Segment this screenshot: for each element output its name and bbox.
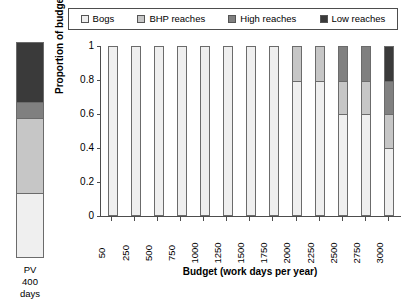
bar-500 <box>154 46 164 216</box>
bar-segment <box>385 47 393 81</box>
x-axis-tick-mark <box>388 216 389 221</box>
x-axis-label-slot: 2250 <box>314 224 324 268</box>
legend-entry: Bogs <box>81 14 115 24</box>
x-axis-label-slot: 1750 <box>268 224 278 268</box>
y-axis-tick-label: 0 <box>88 211 94 221</box>
legend-label: Bogs <box>93 14 115 24</box>
x-axis-label-slot: 2750 <box>360 224 370 268</box>
stacked-bar-chart: Proportion of budget 00.20.40.60.81 5025… <box>56 38 401 288</box>
bar-segment <box>316 81 324 215</box>
bar-1000 <box>200 46 210 216</box>
x-axis-tick-mark <box>157 216 158 221</box>
x-axis-tick-mark <box>365 216 366 221</box>
bar-segment <box>362 47 370 81</box>
x-axis-tick-mark <box>249 216 250 221</box>
y-axis-title: Proportion of budget <box>54 0 65 94</box>
pv-caption-line-1: PV <box>10 264 50 276</box>
x-axis-tick-mark <box>180 216 181 221</box>
x-axis-label-slot: 50 <box>107 224 117 268</box>
bar-segment <box>362 114 370 215</box>
y-axis-tick-mark <box>97 148 101 149</box>
pv-stacked-bar <box>16 42 44 258</box>
legend-label: High reaches <box>240 14 296 24</box>
x-axis-label-slot: 1000 <box>199 224 209 268</box>
bar-2500 <box>338 46 348 216</box>
bar-segment <box>109 47 117 215</box>
legend-swatch-icon <box>137 15 145 23</box>
x-axis-tick-mark <box>272 216 273 221</box>
pv-caption-line-2: 400 <box>10 276 50 288</box>
bar-1750 <box>269 46 279 216</box>
bar-segment <box>155 47 163 215</box>
bar-segment <box>362 81 370 115</box>
x-axis-label-slot: 250 <box>130 224 140 268</box>
legend-swatch-icon <box>81 15 89 23</box>
y-axis-tick-label: 0.8 <box>80 75 94 85</box>
x-axis-tick-mark <box>296 216 297 221</box>
legend-entry: High reaches <box>228 14 296 24</box>
x-axis-tick-mark <box>111 216 112 221</box>
x-axis-tick-mark <box>342 216 343 221</box>
y-axis-tick-label: 1 <box>88 41 94 51</box>
bar-group <box>101 46 401 216</box>
plot-area <box>100 46 401 217</box>
pv-segment <box>17 102 43 118</box>
x-axis-tick-label: 3000 <box>373 242 403 263</box>
bar-segment <box>201 47 209 215</box>
x-axis-label-slot: 750 <box>176 224 186 268</box>
x-axis-label-slot: 500 <box>153 224 163 268</box>
bar-segment <box>178 47 186 215</box>
bar-50 <box>108 46 118 216</box>
x-axis-tick-mark <box>134 216 135 221</box>
y-axis-tick-mark <box>97 114 101 115</box>
bar-segment <box>270 47 278 215</box>
y-axis-tick-mark <box>97 80 101 81</box>
bar-segment <box>339 114 347 215</box>
y-axis-tick-mark <box>97 182 101 183</box>
pv-caption: PV 400 days <box>10 264 50 300</box>
y-axis-tick-mark <box>97 46 101 47</box>
legend-swatch-icon <box>228 15 236 23</box>
y-axis-tick-labels: 00.20.40.60.81 <box>68 38 94 216</box>
legend-label: Low reaches <box>332 14 386 24</box>
bar-2750 <box>361 46 371 216</box>
bar-segment <box>385 81 393 115</box>
y-axis-tick-label: 0.4 <box>80 143 94 153</box>
x-axis-label-slot: 2000 <box>291 224 301 268</box>
chart-legend: BogsBHP reachesHigh reachesLow reaches <box>68 8 398 30</box>
bar-segment <box>247 47 255 215</box>
legend-entry: BHP reaches <box>137 14 205 24</box>
y-axis-tick-label: 0.2 <box>80 177 94 187</box>
x-axis-tick-marks <box>100 216 400 222</box>
x-axis-label-slot: 3000 <box>383 224 393 268</box>
bar-750 <box>177 46 187 216</box>
x-axis-tick-mark <box>203 216 204 221</box>
bar-segment <box>316 47 324 81</box>
x-axis-tick-mark <box>319 216 320 221</box>
bar-segment <box>339 81 347 115</box>
bar-segment <box>224 47 232 215</box>
bar-3000 <box>384 46 394 216</box>
pv-segment <box>17 193 43 257</box>
pv-reference-block: PV 400 days <box>10 42 50 300</box>
legend-swatch-icon <box>320 15 328 23</box>
y-axis-tick-label: 0.6 <box>80 109 94 119</box>
x-axis-label-slot: 2500 <box>337 224 347 268</box>
bar-2000 <box>292 46 302 216</box>
legend-label: BHP reaches <box>149 14 205 24</box>
x-axis-tick-labels: 5025050075010001250150017502000225025002… <box>100 224 400 268</box>
bar-segment <box>339 47 347 81</box>
x-axis-tick-mark <box>226 216 227 221</box>
bar-2250 <box>315 46 325 216</box>
bar-250 <box>131 46 141 216</box>
bar-segment <box>385 114 393 148</box>
x-axis-title: Budget (work days per year) <box>100 266 400 277</box>
bar-segment <box>293 47 301 81</box>
x-axis-label-slot: 1250 <box>222 224 232 268</box>
legend-entry: Low reaches <box>320 14 386 24</box>
bar-segment <box>385 148 393 215</box>
bar-segment <box>293 81 301 215</box>
pv-caption-line-3: days <box>10 288 50 300</box>
x-axis-label-slot: 1500 <box>245 224 255 268</box>
bar-1250 <box>223 46 233 216</box>
